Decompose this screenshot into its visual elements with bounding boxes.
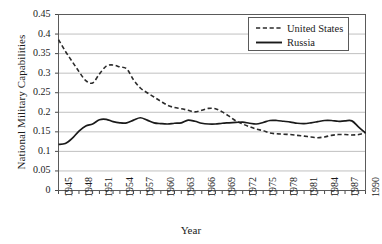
data-series-group bbox=[59, 40, 366, 145]
y-tick-label: 0.2 bbox=[17, 106, 51, 117]
x-tick-label: 1954 bbox=[124, 177, 135, 197]
x-tick-label: 1987 bbox=[349, 177, 360, 197]
series-line-united-states bbox=[59, 40, 366, 138]
y-tick-label: 0.05 bbox=[17, 164, 51, 175]
x-tick-label: 1960 bbox=[165, 177, 176, 197]
x-tick-label: 1948 bbox=[83, 177, 94, 197]
x-tick-label: 1984 bbox=[329, 177, 340, 197]
y-tick-label: 0.45 bbox=[17, 8, 51, 19]
x-tick-label: 1966 bbox=[206, 177, 217, 197]
x-tick-label: 1972 bbox=[247, 177, 258, 197]
chart-figure: United StatesRussia National Military Ca… bbox=[0, 0, 382, 244]
series-line-russia bbox=[59, 118, 366, 145]
x-tick-label: 1969 bbox=[226, 177, 237, 197]
x-tick-label: 1981 bbox=[308, 177, 319, 197]
y-tick-label: 0.3 bbox=[17, 67, 51, 78]
x-tick-label: 1975 bbox=[267, 177, 278, 197]
x-tick-label: 1990 bbox=[370, 177, 381, 197]
x-axis-title: Year bbox=[0, 224, 382, 236]
x-tick-label: 1957 bbox=[144, 177, 155, 197]
y-tick-label: 0.4 bbox=[17, 28, 51, 39]
y-tick-label: 0.25 bbox=[17, 86, 51, 97]
x-tick-label: 1951 bbox=[103, 177, 114, 197]
y-tick-label: 0.1 bbox=[17, 145, 51, 156]
x-tick-label: 1945 bbox=[63, 177, 74, 197]
x-tick-label: 1963 bbox=[185, 177, 196, 197]
y-tick-label: 0 bbox=[17, 184, 51, 195]
x-tick-label: 1978 bbox=[288, 177, 299, 197]
legend-label-russia: Russia bbox=[287, 37, 315, 48]
line-chart-plot: United StatesRussia bbox=[0, 0, 382, 244]
y-tick-label: 0.15 bbox=[17, 125, 51, 136]
y-tick-label: 0.35 bbox=[17, 47, 51, 58]
y-tick-marks-group bbox=[55, 15, 59, 191]
legend-label-united-states: United States bbox=[287, 23, 343, 34]
chart-legend: United StatesRussia bbox=[249, 18, 349, 51]
